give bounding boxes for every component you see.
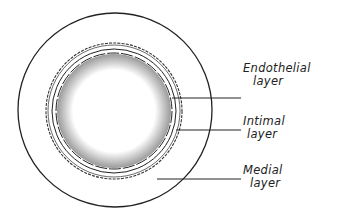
lumen [57, 54, 171, 168]
label-line: layer [243, 177, 283, 190]
medial-label: Medial layer [243, 164, 283, 190]
label-line: layer [243, 128, 285, 141]
endothelial-label: Endothelial layer [243, 62, 311, 88]
label-line: layer [243, 75, 311, 88]
intimal-label: Intimal layer [243, 115, 285, 141]
artery-cross-section [0, 0, 338, 222]
